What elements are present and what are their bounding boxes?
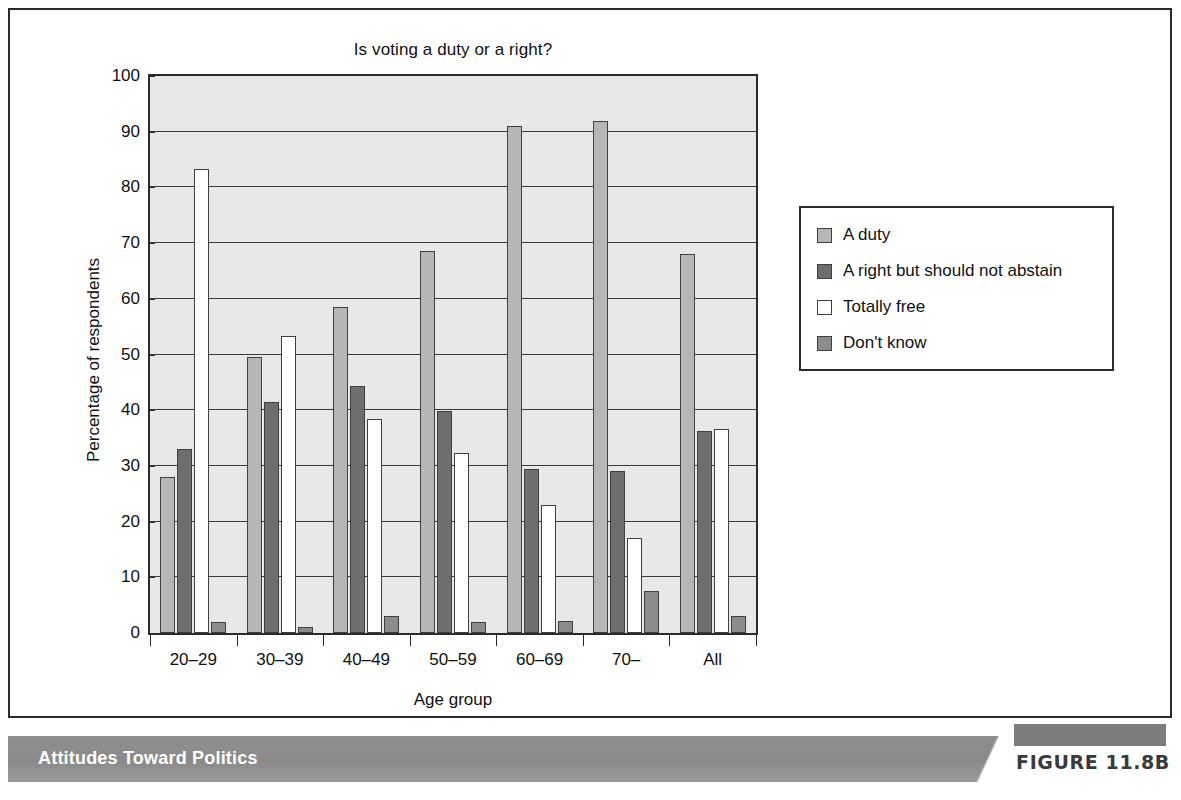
x-axis-labels: 20–2930–3940–4950–5960–6970–All — [148, 650, 758, 678]
caption-band: Attitudes Toward Politics — [8, 736, 1172, 782]
y-tick-mark — [148, 132, 155, 133]
bar — [558, 621, 573, 633]
legend-swatch-icon — [817, 264, 832, 279]
x-axis-ticks — [148, 635, 758, 649]
legend-label: Totally free — [843, 297, 925, 317]
bar — [680, 254, 695, 633]
bar — [697, 431, 712, 633]
y-tick-mark — [148, 243, 155, 244]
bar — [420, 251, 435, 633]
y-tick-label: 20 — [94, 512, 140, 532]
chart-title: Is voting a duty or a right? — [148, 40, 758, 60]
bar — [454, 453, 469, 633]
bar — [644, 591, 659, 633]
figure-page: Is voting a duty or a right? Percentage … — [0, 0, 1181, 800]
y-axis-ticks: 0102030405060708090100 — [90, 74, 140, 635]
y-tick-mark — [148, 299, 155, 300]
bar — [507, 126, 522, 633]
figure-frame: Is voting a duty or a right? Percentage … — [8, 8, 1172, 718]
bar — [264, 402, 279, 633]
bar — [160, 477, 175, 633]
x-tick-mark — [323, 635, 324, 646]
legend-item[interactable]: Totally free — [817, 296, 925, 318]
legend-swatch-icon — [817, 300, 832, 315]
x-tick-label: 50–59 — [429, 650, 476, 670]
y-tick-label: 0 — [94, 623, 140, 643]
bar — [437, 411, 452, 633]
y-tick-label: 60 — [94, 289, 140, 309]
x-tick-label: 40–49 — [343, 650, 390, 670]
x-tick-mark — [150, 635, 151, 646]
y-axis-title-wrapper: Percentage of respondents — [44, 170, 68, 590]
y-tick-mark — [148, 466, 155, 467]
bar — [384, 616, 399, 633]
bar — [367, 419, 382, 633]
chart-legend: A dutyA right but should not abstainTota… — [799, 206, 1114, 371]
x-tick-label: All — [703, 650, 722, 670]
y-tick-label: 10 — [94, 567, 140, 587]
bar — [333, 307, 348, 633]
bar-group — [150, 76, 237, 633]
x-axis-title: Age group — [148, 690, 758, 710]
x-tick-label: 30–39 — [256, 650, 303, 670]
y-tick-mark — [148, 522, 155, 523]
bar — [350, 386, 365, 633]
bar — [541, 505, 556, 633]
y-tick-mark — [148, 187, 155, 188]
x-tick-mark — [410, 635, 411, 646]
bar — [211, 622, 226, 633]
bar-group — [669, 76, 756, 633]
bar-group — [323, 76, 410, 633]
x-tick-label: 20–29 — [170, 650, 217, 670]
bar — [471, 622, 486, 633]
legend-label: Don't know — [843, 333, 927, 353]
y-tick-mark — [148, 633, 155, 634]
bar — [247, 357, 262, 633]
y-tick-label: 50 — [94, 345, 140, 365]
x-tick-label: 60–69 — [516, 650, 563, 670]
y-tick-mark — [148, 577, 155, 578]
legend-label: A duty — [843, 225, 890, 245]
legend-swatch-icon — [817, 228, 832, 243]
x-tick-mark — [583, 635, 584, 646]
y-tick-mark — [148, 410, 155, 411]
bar — [627, 538, 642, 633]
bar — [714, 429, 729, 633]
y-tick-label: 100 — [94, 66, 140, 86]
bar — [610, 471, 625, 633]
x-tick-mark — [496, 635, 497, 646]
legend-item[interactable]: A right but should not abstain — [817, 260, 1062, 282]
bar-group — [237, 76, 324, 633]
figure-tag: FIGURE 11.8B — [1014, 751, 1172, 773]
bar-group — [410, 76, 497, 633]
bar — [593, 121, 608, 633]
x-tick-mark — [237, 635, 238, 646]
x-tick-mark — [756, 635, 757, 646]
bar — [177, 449, 192, 633]
x-tick-mark — [669, 635, 670, 646]
y-tick-label: 90 — [94, 122, 140, 142]
legend-item[interactable]: Don't know — [817, 332, 927, 354]
y-tick-label: 30 — [94, 456, 140, 476]
y-tick-label: 70 — [94, 233, 140, 253]
bar — [731, 616, 746, 633]
bar-group — [496, 76, 583, 633]
legend-label: A right but should not abstain — [843, 261, 1062, 281]
bar — [281, 336, 296, 633]
figure-tag-box — [1014, 724, 1166, 746]
plot-area — [148, 74, 758, 635]
y-tick-mark — [148, 76, 155, 77]
y-tick-label: 80 — [94, 177, 140, 197]
x-tick-label: 70– — [612, 650, 640, 670]
bar — [194, 169, 209, 633]
bar-group — [583, 76, 670, 633]
bar — [524, 469, 539, 633]
y-tick-label: 40 — [94, 400, 140, 420]
figure-caption: Attitudes Toward Politics — [38, 748, 258, 769]
y-tick-mark — [148, 355, 155, 356]
legend-swatch-icon — [817, 336, 832, 351]
legend-item[interactable]: A duty — [817, 224, 890, 246]
bar — [298, 627, 313, 633]
